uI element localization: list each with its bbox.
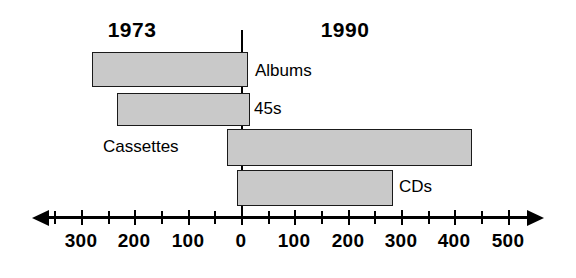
bar-cassettes <box>227 129 472 166</box>
tick-label-m300: 300 <box>65 230 98 252</box>
tick-major-m100 <box>188 210 190 225</box>
tick-label-m200: 200 <box>118 230 151 252</box>
series-label-cassettes: Cassettes <box>103 137 179 157</box>
tick-label-p200: 200 <box>332 230 365 252</box>
tick-minor-p50 <box>268 211 270 224</box>
bar-cds <box>237 170 393 206</box>
tick-minor-m150 <box>161 211 163 224</box>
tick-label-0: 0 <box>236 230 247 252</box>
tick-major-p300 <box>401 210 403 225</box>
tick-minor-p350 <box>428 211 430 224</box>
tick-minor-m250 <box>108 211 110 224</box>
series-label-albums: Albums <box>255 61 312 81</box>
tick-major-m200 <box>134 210 136 225</box>
tick-major-p400 <box>454 210 456 225</box>
tick-minor-p250 <box>374 211 376 224</box>
tick-major-0 <box>241 210 243 225</box>
record-sales-bar-chart: 1973 1990 Albums 45s Cassettes CDs <box>0 0 576 278</box>
plot-area: Albums 45s Cassettes CDs 300 200 100 0 <box>0 0 576 278</box>
tick-label-p500: 500 <box>492 230 525 252</box>
tick-label-p100: 100 <box>278 230 311 252</box>
series-label-45s: 45s <box>254 99 281 119</box>
axis-arrow-right-icon <box>527 210 544 226</box>
tick-major-m300 <box>81 210 83 225</box>
axis-arrow-left-icon <box>32 210 49 226</box>
tick-label-p300: 300 <box>385 230 418 252</box>
tick-minor-p450 <box>481 211 483 224</box>
tick-major-p500 <box>508 210 510 225</box>
series-label-cds: CDs <box>399 177 432 197</box>
tick-minor-p150 <box>321 211 323 224</box>
tick-minor-m350 <box>54 211 56 224</box>
tick-major-p100 <box>294 210 296 225</box>
tick-label-m100: 100 <box>172 230 205 252</box>
bar-albums <box>92 52 248 87</box>
tick-major-p200 <box>348 210 350 225</box>
tick-minor-m50 <box>214 211 216 224</box>
bar-45s <box>117 93 250 126</box>
tick-label-p400: 400 <box>438 230 471 252</box>
